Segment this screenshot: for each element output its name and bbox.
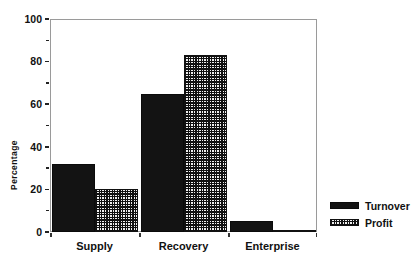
bar-chart: Percentage 020406080100 SupplyRecoveryEn…: [0, 0, 419, 267]
bar-turnover-recovery: [141, 94, 184, 232]
x-axis-label-enterprise: Enterprise: [228, 240, 317, 252]
y-axis-tick-mark: [45, 146, 49, 148]
legend-label-profit: Profit: [365, 217, 392, 229]
legend-item-turnover[interactable]: Turnover: [330, 197, 419, 214]
y-axis-tick-mark: [46, 40, 49, 42]
bar-turnover-supply: [52, 164, 95, 232]
bar-turnover-enterprise: [230, 221, 273, 232]
bar-profit-supply: [95, 189, 138, 232]
legend-swatch-profit: [330, 219, 359, 226]
y-axis-tick-mark: [46, 167, 49, 169]
y-axis-tick-mark: [46, 125, 49, 127]
x-axis-tick-mark: [50, 233, 52, 237]
y-axis-tick-mark: [45, 189, 49, 191]
legend-label-turnover: Turnover: [365, 200, 410, 212]
y-axis-tick-label: 100: [24, 14, 42, 25]
y-axis-tick-mark: [45, 231, 49, 233]
x-axis-tick-mark: [139, 233, 141, 237]
y-axis-tick-mark: [46, 210, 49, 212]
legend-swatch-turnover: [330, 202, 359, 209]
x-axis-labels: SupplyRecoveryEnterprise: [50, 240, 317, 260]
y-axis-tick-label: 80: [30, 56, 42, 67]
x-axis-tick-mark: [228, 233, 230, 237]
y-axis-tick-mark: [45, 18, 49, 20]
y-axis-tick-mark: [46, 82, 49, 84]
x-axis-label-supply: Supply: [50, 240, 139, 252]
y-axis-tick-label: 20: [30, 184, 42, 195]
y-axis-tick-mark: [45, 103, 49, 105]
y-axis-tick-mark: [45, 61, 49, 63]
y-axis-ticks: 020406080100: [0, 0, 50, 267]
bars-layer: [50, 19, 317, 232]
y-axis-tick-label: 0: [36, 227, 42, 238]
x-axis-label-recovery: Recovery: [139, 240, 228, 252]
chart-legend: TurnoverProfit: [330, 197, 419, 231]
y-axis-tick-label: 60: [30, 99, 42, 110]
x-axis-tick-mark: [316, 233, 318, 237]
y-axis-tick-label: 40: [30, 142, 42, 153]
legend-item-profit[interactable]: Profit: [330, 214, 419, 231]
bar-profit-recovery: [184, 55, 227, 232]
